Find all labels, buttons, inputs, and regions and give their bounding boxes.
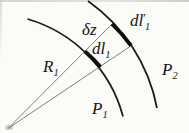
label-element-inner-main: dl — [92, 39, 105, 58]
label-surface-p1: P1 — [92, 100, 108, 117]
arc-surface-p1 — [28, 19, 124, 117]
label-separation-main: δz — [82, 20, 97, 39]
label-surface-inner-sub: 1 — [102, 109, 107, 120]
label-element-outer-sub: 1 — [145, 21, 150, 32]
label-surface-outer-sub: 2 — [172, 70, 177, 81]
label-radius-r1: R1 — [43, 58, 59, 75]
label-element-dl1-prime: dl′1 — [130, 11, 150, 29]
label-radius-sub: 1 — [53, 67, 58, 78]
label-surface-p2: P2 — [162, 61, 178, 78]
apex-point — [5, 125, 13, 130]
ray-lower — [8, 46, 132, 129]
label-element-inner-sub: 1 — [105, 49, 110, 60]
label-separation-dz: δz — [82, 21, 97, 38]
segment-dl1-prime-bold — [112, 24, 131, 46]
label-radius-main: R — [43, 57, 53, 76]
wavefront-ray-diagram: R1 δz dl1 dl′1 P1 P2 — [0, 0, 189, 133]
label-surface-outer-main: P — [162, 60, 172, 79]
label-element-dl1: dl1 — [92, 40, 110, 57]
label-surface-inner-main: P — [92, 99, 102, 118]
